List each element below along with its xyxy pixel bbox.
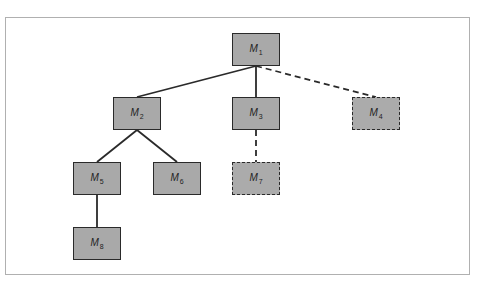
node-m4-label: M4 <box>369 107 382 120</box>
node-m5-label: M5 <box>90 172 103 185</box>
edge-m2-m5 <box>97 130 137 162</box>
node-m2: M2 <box>113 97 161 130</box>
edge-m1-m4 <box>256 66 376 97</box>
node-m6-label: M6 <box>170 172 183 185</box>
node-m7-label: M7 <box>249 172 262 185</box>
node-m2-label: M2 <box>130 107 143 120</box>
node-m3: M3 <box>232 97 280 130</box>
node-m5: M5 <box>73 162 121 195</box>
node-m1-label: M1 <box>249 43 262 56</box>
node-m3-label: M3 <box>249 107 262 120</box>
edge-m1-m2 <box>137 66 256 97</box>
node-m7: M7 <box>232 162 280 195</box>
node-m6: M6 <box>153 162 201 195</box>
node-m8-label: M8 <box>90 237 103 250</box>
node-m8: M8 <box>73 227 121 260</box>
node-m4: M4 <box>352 97 400 130</box>
node-m1: M1 <box>232 33 280 66</box>
edge-m2-m6 <box>137 130 177 162</box>
